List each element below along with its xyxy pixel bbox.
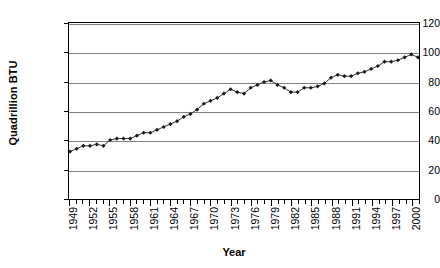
data-point-marker xyxy=(75,147,79,151)
data-point-marker xyxy=(356,71,360,75)
data-point-marker xyxy=(208,99,212,103)
x-axis-tick-label: 1979 xyxy=(269,207,281,230)
x-axis-tick-label: 1949 xyxy=(67,207,79,230)
data-point-marker xyxy=(416,55,419,59)
data-point-marker xyxy=(88,144,92,148)
x-axis-tick-label: 1976 xyxy=(249,207,261,230)
x-axis-tick-label: 1952 xyxy=(87,207,99,230)
data-point-marker xyxy=(128,136,132,140)
data-point-marker xyxy=(342,74,346,78)
data-point-marker xyxy=(235,90,239,94)
plot-area xyxy=(68,22,420,200)
x-axis-labels: 1949195219551958196119641967197019731976… xyxy=(0,200,440,246)
data-point-marker xyxy=(403,55,407,59)
y-axis-title-text: Quadrillion BTU xyxy=(7,60,19,145)
data-point-marker xyxy=(162,125,166,129)
data-point-marker xyxy=(95,142,99,146)
x-axis-tick-label: 1973 xyxy=(229,207,241,230)
x-axis-tick-label: 1967 xyxy=(188,207,200,230)
data-series-line xyxy=(69,23,419,199)
data-point-marker xyxy=(115,136,119,140)
data-point-marker xyxy=(69,150,72,154)
x-axis-tick-label: 1994 xyxy=(370,207,382,230)
data-point-marker xyxy=(148,131,152,135)
data-point-marker xyxy=(142,131,146,135)
data-point-marker xyxy=(349,74,353,78)
x-axis-tick-label: 1982 xyxy=(289,207,301,230)
chart-container: Quadrillion BTU 020406080100120 19491952… xyxy=(0,0,440,268)
data-point-marker xyxy=(316,84,320,88)
series-line xyxy=(70,54,418,151)
data-point-marker xyxy=(262,80,266,84)
x-axis-tick-label: 1997 xyxy=(390,207,402,230)
x-axis-tick-label: 1985 xyxy=(309,207,321,230)
x-axis-tick-label: 1955 xyxy=(107,207,119,230)
data-point-marker xyxy=(81,144,85,148)
data-point-marker xyxy=(121,136,125,140)
data-point-marker xyxy=(309,86,313,90)
data-point-marker xyxy=(336,73,340,77)
data-point-marker xyxy=(389,60,393,64)
x-axis-tick-label: 1958 xyxy=(128,207,140,230)
x-axis-tick-label: 1970 xyxy=(208,207,220,230)
data-point-marker xyxy=(362,70,366,74)
x-axis-tick-label: 2000 xyxy=(410,207,422,230)
y-axis-title: Quadrillion BTU xyxy=(2,0,24,205)
x-axis-tick-label: 1988 xyxy=(330,207,342,230)
data-point-marker xyxy=(396,58,400,62)
x-axis-tick-label: 1961 xyxy=(148,207,160,230)
x-axis-tick-label: 1991 xyxy=(350,207,362,230)
data-point-marker xyxy=(255,83,259,87)
data-point-marker xyxy=(155,128,159,132)
data-point-marker xyxy=(369,67,373,71)
data-point-marker xyxy=(168,122,172,126)
data-point-marker xyxy=(409,52,413,56)
x-axis-title: Year xyxy=(0,246,440,258)
x-axis-tick-label: 1964 xyxy=(168,207,180,230)
data-point-marker xyxy=(135,134,139,138)
